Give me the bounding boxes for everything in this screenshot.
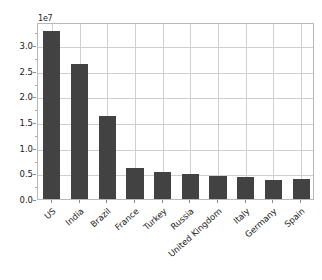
bar xyxy=(71,64,88,199)
x-tick-mark xyxy=(162,200,163,203)
bar xyxy=(182,174,199,199)
x-tick-mark xyxy=(79,200,80,203)
bar-series xyxy=(38,24,313,199)
bar xyxy=(265,180,282,199)
y-axis-tick-labels: 0.00.51.01.52.02.53.0 xyxy=(0,23,33,200)
x-tick-mark xyxy=(189,200,190,203)
x-tick-mark xyxy=(300,200,301,203)
x-tick-mark xyxy=(245,200,246,203)
y-tick-mark xyxy=(33,46,36,47)
y-tick-label: 1.0 xyxy=(3,144,33,154)
y-tick-mark xyxy=(33,149,36,150)
y-tick-label: 2.0 xyxy=(3,92,33,102)
bar xyxy=(43,31,60,199)
x-tick-mark xyxy=(272,200,273,203)
bar xyxy=(237,177,254,199)
x-tick-mark xyxy=(217,200,218,203)
y-tick-label: 3.0 xyxy=(3,41,33,51)
plot-area xyxy=(37,23,314,200)
x-tick-mark xyxy=(134,200,135,203)
y-tick-mark xyxy=(33,200,36,201)
y-tick-label: 2.5 xyxy=(3,67,33,77)
bar xyxy=(99,116,116,199)
y-axis-offset-text: 1e7 xyxy=(38,14,53,23)
x-axis-tick-labels: USIndiaBrazilFranceTurkeyRussiaUnited Ki… xyxy=(37,200,314,280)
bar-chart-figure: 1e7 0.00.51.01.52.02.53.0 USIndiaBrazilF… xyxy=(0,0,322,280)
x-tick-mark xyxy=(51,200,52,203)
y-tick-mark xyxy=(33,123,36,124)
y-tick-mark xyxy=(33,97,36,98)
y-tick-label: 0.0 xyxy=(3,195,33,205)
y-tick-mark xyxy=(33,174,36,175)
bar xyxy=(293,179,310,199)
y-tick-label: 1.5 xyxy=(3,118,33,128)
y-tick-label: 0.5 xyxy=(3,169,33,179)
bar xyxy=(154,172,171,199)
y-tick-mark xyxy=(33,72,36,73)
bar xyxy=(126,168,143,199)
x-tick-mark xyxy=(106,200,107,203)
bar xyxy=(209,176,226,199)
